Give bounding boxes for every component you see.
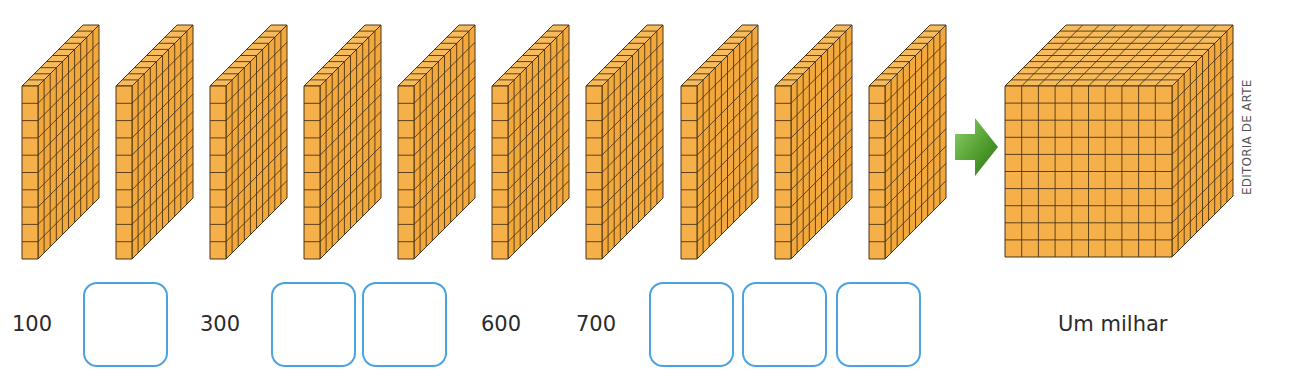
hundred-slab: [398, 25, 475, 259]
hundred-slab: [869, 25, 946, 259]
hundred-slabs-group: [22, 25, 946, 259]
hundred-slab: [304, 25, 381, 259]
thousand-cube: [1005, 25, 1233, 257]
answer-box-1[interactable]: [83, 282, 168, 367]
label-600: 600: [481, 314, 521, 335]
label-100: 100: [12, 314, 52, 335]
image-credit: EDITORIA DE ARTE: [1240, 35, 1254, 195]
hundred-slab: [775, 25, 852, 259]
label-300: 300: [200, 314, 240, 335]
hundred-slab: [681, 25, 758, 259]
hundred-slab: [22, 25, 99, 259]
answer-box-4[interactable]: [649, 282, 734, 367]
hundred-slab: [210, 25, 287, 259]
hundred-slab: [116, 25, 193, 259]
answer-box-6[interactable]: [836, 282, 921, 367]
arrow-right-icon: [955, 118, 998, 176]
base-ten-blocks-figure: [0, 0, 1292, 280]
answer-box-3[interactable]: [362, 282, 447, 367]
label-um-milhar: Um milhar: [1058, 314, 1167, 335]
answer-box-5[interactable]: [742, 282, 827, 367]
hundred-slab: [492, 25, 569, 259]
label-700: 700: [576, 314, 616, 335]
answer-box-2[interactable]: [271, 282, 356, 367]
hundred-slab: [586, 25, 663, 259]
